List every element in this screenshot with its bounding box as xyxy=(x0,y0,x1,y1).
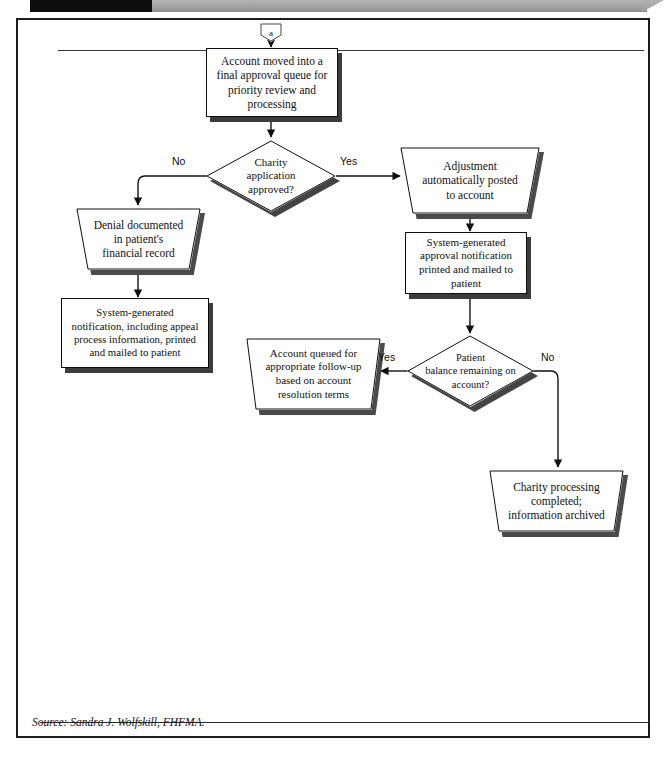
banner-gray-block xyxy=(152,0,647,12)
node-account-moved-label: Account moved into a final approval queu… xyxy=(211,54,334,111)
node-charity-completed: Charity processing completed; informatio… xyxy=(489,470,624,532)
node-denial-notification-label: System-generated notification, including… xyxy=(66,306,205,360)
edge-label-balance-no: No xyxy=(541,351,554,363)
frame-top-rule xyxy=(58,50,644,51)
node-patient-balance-label: Patient balance remaining on account? xyxy=(407,335,534,407)
banner-gray-tail xyxy=(642,0,664,12)
node-approval-notification-label: System-generated approval notification p… xyxy=(413,236,519,291)
node-denial-notification: System-generated notification, including… xyxy=(61,298,209,368)
connector-a: a xyxy=(260,23,282,42)
edge-label-balance-yes: Yes xyxy=(378,351,395,363)
node-charity-approved: Charity application approved? xyxy=(206,140,336,212)
node-charity-approved-label: Charity application approved? xyxy=(206,140,336,212)
node-account-moved: Account moved into a final approval queu… xyxy=(206,48,338,117)
node-charity-completed-label: Charity processing completed; informatio… xyxy=(489,470,624,532)
node-patient-balance: Patient balance remaining on account? xyxy=(407,335,534,407)
node-adjustment-posted-label: Adjustment automatically posted to accou… xyxy=(400,147,540,214)
page-banner xyxy=(0,0,669,14)
node-account-queued: Account queued for appropriate follow-up… xyxy=(246,338,381,410)
node-account-queued-label: Account queued for appropriate follow-up… xyxy=(246,338,381,410)
edge-label-charity-yes: Yes xyxy=(340,155,357,167)
banner-black-block xyxy=(30,0,152,12)
node-adjustment-posted: Adjustment automatically posted to accou… xyxy=(400,147,540,214)
edge-label-charity-no: No xyxy=(172,155,185,167)
connector-a-label: a xyxy=(260,23,282,42)
node-denial-documented: Denial documented in patient's financial… xyxy=(76,208,201,270)
node-approval-notification: System-generated approval notification p… xyxy=(405,232,527,294)
node-denial-documented-label: Denial documented in patient's financial… xyxy=(76,208,201,270)
source-credit: Source: Sandra J. Wolfskill, FHFMA. xyxy=(32,716,205,728)
